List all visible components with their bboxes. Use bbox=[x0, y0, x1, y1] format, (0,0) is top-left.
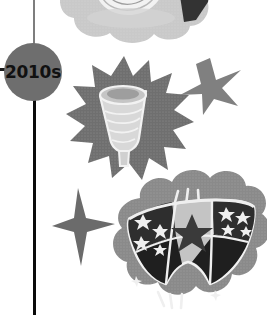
timeline-illustration-panel: 2010s bbox=[0, 0, 267, 315]
pad-shadow bbox=[87, 8, 175, 28]
four-point-sparkle-icon bbox=[52, 188, 115, 266]
period-underwear-cloud-illustration bbox=[113, 170, 267, 308]
five-point-star-icon bbox=[180, 58, 241, 115]
menstrual-cup-starburst-illustration bbox=[66, 56, 194, 180]
timeline-node-2010s[interactable]: 2010s bbox=[4, 43, 62, 101]
timeline-axis-lower bbox=[33, 97, 36, 315]
sanitary-pad-cloud-illustration bbox=[60, 0, 212, 43]
timeline-axis-upper bbox=[33, 0, 35, 48]
timeline-node-label: 2010s bbox=[5, 64, 61, 81]
